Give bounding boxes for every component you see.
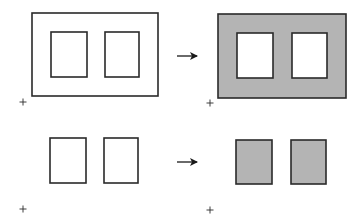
bottom-row-left-inner-rect-1 bbox=[50, 138, 86, 183]
diagram-layer bbox=[20, 13, 347, 214]
bottom-row-right-inner-rect-2 bbox=[291, 140, 326, 184]
bottom-row-right-inner-rect-1 bbox=[236, 140, 272, 184]
top-row-left-inner-rect-2 bbox=[105, 32, 139, 77]
top-row-left-inner-rect-1 bbox=[51, 32, 87, 77]
top-row-left-origin-plus-icon bbox=[20, 99, 27, 106]
diagram-canvas bbox=[0, 0, 360, 224]
top-row-right-inner-rect-1 bbox=[237, 33, 273, 78]
bottom-row-left-inner-rect-2 bbox=[104, 138, 138, 183]
top-row-right-origin-plus-icon bbox=[207, 100, 214, 107]
bottom-row-right-origin-plus-icon bbox=[207, 207, 214, 214]
bottom-row-left-origin-plus-icon bbox=[20, 206, 27, 213]
top-row-right-inner-rect-2 bbox=[292, 33, 327, 78]
